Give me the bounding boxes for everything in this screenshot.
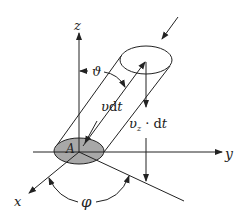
y-axis-label: y bbox=[224, 146, 234, 162]
z-axis-label: z bbox=[73, 18, 81, 33]
x-axis-label: x bbox=[14, 194, 22, 209]
incoming-flux-arrow bbox=[162, 17, 178, 39]
theta-label: ϑ bbox=[92, 64, 101, 79]
v-dt-label: υdt bbox=[101, 99, 123, 114]
phi-label: φ bbox=[81, 193, 92, 211]
vz-dt-label: υz · dt bbox=[129, 116, 168, 133]
phi-arc-left bbox=[49, 178, 78, 202]
area-label: A bbox=[65, 142, 75, 156]
flux-cylinder-diagram: z y x A ϑ φ υdt υz · dt bbox=[0, 0, 246, 217]
projection-line bbox=[79, 152, 184, 201]
theta-arc bbox=[104, 72, 125, 87]
phi-arc-right bbox=[96, 176, 129, 202]
